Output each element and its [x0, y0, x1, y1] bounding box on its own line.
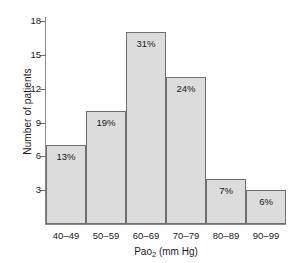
plot-area: 369121518 13%19%31%24%7%6% — [45, 12, 285, 224]
y-tick-label: 3 — [36, 184, 41, 195]
bar: 31% — [126, 32, 166, 224]
bar: 7% — [206, 179, 246, 224]
bar: 6% — [246, 190, 286, 224]
x-axis-category-labels: 40–4950–5960–6970–7980–8990–99 — [46, 230, 286, 244]
bar-percentage-label: 19% — [87, 117, 125, 128]
x-axis-title-subscript: 2 — [152, 250, 156, 259]
x-axis-title-suffix: (mm Hg) — [156, 246, 198, 257]
x-category-label: 50–59 — [86, 230, 126, 242]
bar-percentage-label: 24% — [167, 83, 205, 94]
bar-percentage-label: 7% — [207, 185, 245, 196]
y-tick-label: 12 — [30, 83, 41, 94]
y-tick-label: 18 — [30, 15, 41, 26]
x-axis-title-prefix: Pao — [134, 246, 152, 257]
bar-percentage-label: 6% — [247, 196, 285, 207]
y-tick-label: 15 — [30, 49, 41, 60]
x-axis-title: Pao2 (mm Hg) — [46, 246, 286, 259]
x-category-label: 60–69 — [126, 230, 166, 242]
x-category-label: 90–99 — [246, 230, 286, 242]
y-tick-label: 9 — [36, 117, 41, 128]
x-category-label: 70–79 — [166, 230, 206, 242]
x-category-label: 40–49 — [46, 230, 86, 242]
y-tick-label: 6 — [36, 150, 41, 161]
x-category-label: 80–89 — [206, 230, 246, 242]
bar: 24% — [166, 77, 206, 224]
bar: 13% — [46, 145, 86, 224]
bar-percentage-label: 13% — [47, 151, 85, 162]
bar-percentage-label: 31% — [127, 38, 165, 49]
bar: 19% — [86, 111, 126, 224]
histogram-chart: Number of patients 369121518 13%19%31%24… — [0, 0, 288, 263]
bar-series: 13%19%31%24%7%6% — [46, 12, 286, 225]
